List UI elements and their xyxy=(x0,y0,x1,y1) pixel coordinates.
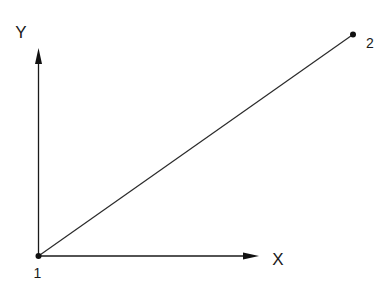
point-1-label: 1 xyxy=(34,265,42,281)
x-axis-arrowhead-icon xyxy=(243,253,259,260)
point-2: 2 xyxy=(350,32,374,52)
y-axis: Y xyxy=(15,23,42,256)
vector-segment xyxy=(39,35,354,257)
point-2-label: 2 xyxy=(366,35,374,51)
y-axis-label: Y xyxy=(15,23,26,42)
point-2-dot-icon xyxy=(350,32,356,38)
point-1-dot-icon xyxy=(36,253,42,259)
y-axis-arrowhead-icon xyxy=(35,48,42,64)
point-1: 1 xyxy=(34,253,42,281)
x-axis-label: X xyxy=(272,250,283,269)
x-axis: X xyxy=(39,250,284,269)
vector-line xyxy=(39,35,354,257)
diagram-canvas: Y X 1 2 xyxy=(0,0,385,292)
